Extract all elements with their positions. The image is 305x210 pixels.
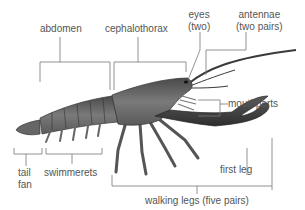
- label-antennae: antennae (two pairs): [236, 9, 283, 33]
- label-tail-fan-line1: tail: [18, 167, 32, 179]
- label-eyes-line2: (two): [188, 21, 210, 33]
- label-tail-fan: tail fan: [18, 167, 32, 191]
- label-abdomen: abdomen: [40, 23, 82, 35]
- tail-fan-drawing: [16, 120, 40, 135]
- antennae-drawing: [188, 50, 296, 88]
- label-cephalothorax: cephalothorax: [105, 23, 168, 35]
- walking-legs-drawing: [116, 120, 198, 174]
- label-antennae-line2: (two pairs): [236, 21, 283, 33]
- label-mouthparts: mouthparts: [228, 98, 278, 110]
- label-tail-fan-line2: fan: [18, 179, 32, 191]
- label-eyes: eyes (two): [188, 9, 210, 33]
- label-antennae-line1: antennae: [236, 9, 283, 21]
- label-swimmerets: swimmerets: [44, 167, 97, 179]
- crayfish-diagram: abdomen cephalothorax eyes (two) antenna…: [0, 0, 305, 210]
- label-first-leg: first leg: [220, 164, 252, 176]
- label-walking-legs: walking legs (five pairs): [145, 195, 249, 207]
- label-eyes-line1: eyes: [188, 9, 210, 21]
- eye-drawing: [184, 80, 188, 83]
